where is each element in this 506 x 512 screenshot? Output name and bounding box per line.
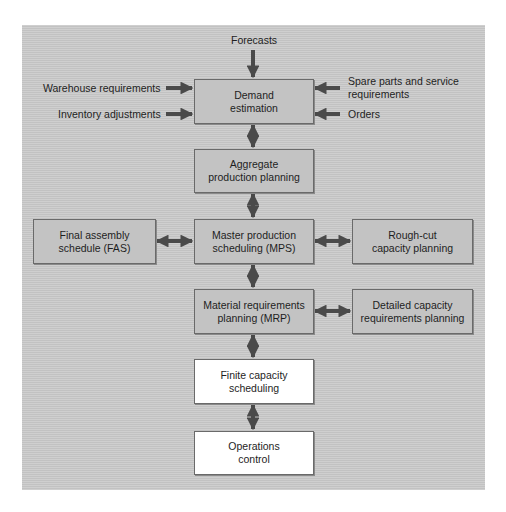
node-label: Rough-cut: [372, 229, 453, 242]
node-detailed-capacity-requirements-planning: Detailed capacityrequirements planning: [352, 289, 473, 334]
node-label: planning (MRP): [203, 312, 305, 325]
input-spare-parts-line1: Spare parts and service: [348, 75, 459, 88]
node-material-requirements-planning: Material requirementsplanning (MRP): [194, 289, 314, 334]
node-operations-control: Operationscontrol: [194, 431, 314, 475]
node-label: Master production: [212, 229, 296, 242]
node-aggregate-production-planning: Aggregateproduction planning: [194, 149, 314, 193]
node-master-production-scheduling: Master productionscheduling (MPS): [194, 219, 314, 264]
node-label: Final assembly: [59, 229, 131, 242]
node-label: capacity planning: [372, 242, 453, 255]
input-orders: Orders: [348, 108, 380, 121]
node-label: Operations: [228, 440, 279, 453]
node-label: Material requirements: [203, 299, 305, 312]
node-label: scheduling: [220, 382, 287, 395]
input-warehouse-requirements: Warehouse requirements: [43, 82, 161, 95]
node-rough-cut-capacity-planning: Rough-cutcapacity planning: [352, 219, 473, 264]
input-forecasts: Forecasts: [231, 34, 277, 47]
node-demand-estimation: Demandestimation: [194, 79, 314, 124]
node-final-assembly-schedule: Final assemblyschedule (FAS): [33, 219, 156, 264]
node-label: Finite capacity: [220, 369, 287, 382]
node-label: requirements planning: [361, 312, 465, 325]
node-label: production planning: [208, 171, 300, 184]
node-label: estimation: [230, 102, 278, 115]
input-inventory-adjustments: Inventory adjustments: [58, 108, 161, 121]
node-label: schedule (FAS): [59, 242, 131, 255]
node-finite-capacity-scheduling: Finite capacityscheduling: [194, 359, 314, 404]
node-label: control: [228, 453, 279, 466]
node-label: scheduling (MPS): [212, 242, 296, 255]
node-label: Aggregate: [208, 158, 300, 171]
node-label: Detailed capacity: [361, 299, 465, 312]
input-spare-parts: Spare parts and service requirements: [348, 75, 459, 101]
input-spare-parts-line2: requirements: [348, 88, 459, 101]
node-label: Demand: [230, 89, 278, 102]
